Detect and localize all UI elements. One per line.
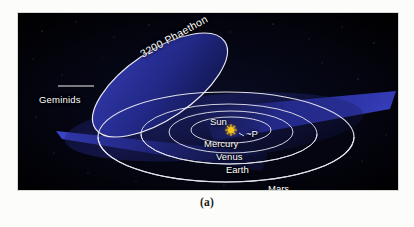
- sun-marker: [224, 123, 238, 137]
- figure-root: Geminids 3200 Phaethon Sun ~P Mercury Ve…: [0, 0, 414, 227]
- figure-caption: (a): [0, 196, 414, 208]
- solar-system-diagram: [18, 13, 398, 190]
- space-diagram-panel: Geminids 3200 Phaethon Sun ~P Mercury Ve…: [18, 13, 398, 190]
